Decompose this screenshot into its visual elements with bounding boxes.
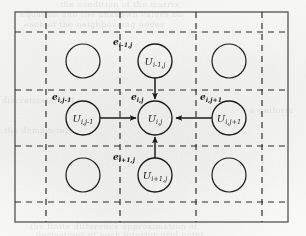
edge-label-center: ei,j: [131, 92, 144, 104]
node-bottom-right: [212, 158, 246, 192]
edge-label-up: ei-1,j: [113, 37, 133, 49]
edge-label-down: ei+1,j: [113, 152, 136, 164]
edge-label-right: ei,j+1: [200, 92, 222, 104]
stencil-figure: Ui-1,j Ui,j Ui+1,j Ui,j-1 Ui,j+1 ei-1,j …: [0, 0, 306, 236]
node-top-right: [212, 44, 246, 78]
node-bottom-left: [66, 158, 100, 192]
stencil-svg: Ui-1,j Ui,j Ui+1,j Ui,j-1 Ui,j+1 ei-1,j …: [0, 0, 306, 236]
edge-label-left: ei,j-1: [52, 92, 71, 104]
node-top-left: [66, 44, 100, 78]
